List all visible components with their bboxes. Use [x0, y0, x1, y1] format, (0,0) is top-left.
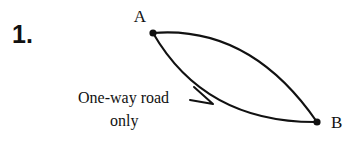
node-b-dot [313, 118, 320, 125]
node-b-label: B [331, 113, 342, 132]
node-a-label: A [134, 7, 147, 26]
one-way-road-diagram: A B One-way road only [0, 0, 360, 146]
caption-line-two: only [110, 112, 138, 130]
node-a-dot [149, 29, 156, 36]
caption-line-one: One-way road [78, 89, 169, 107]
diagram-page: 1. A B One-way road only [0, 0, 360, 146]
